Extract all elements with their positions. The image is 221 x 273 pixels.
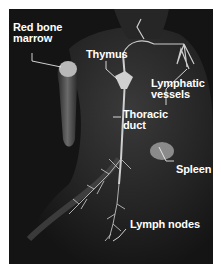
label-thoracic-duct: Thoracic duct — [123, 109, 168, 131]
label-lymphatic-vessels-line2: vessels — [151, 89, 205, 100]
label-red-bone-marrow-line2: marrow — [13, 33, 62, 44]
label-lymph-nodes: Lymph nodes — [130, 219, 200, 230]
label-lymphatic-vessels: Lymphatic vessels — [151, 78, 205, 100]
label-thymus: Thymus — [86, 49, 128, 60]
label-thoracic-duct-line2: duct — [123, 120, 168, 131]
spleen-organ — [150, 142, 174, 160]
label-spleen: Spleen — [176, 164, 211, 175]
lymphatic-system-figure: Red bone marrow Thymus Lymphatic vessels… — [9, 9, 213, 264]
bone-head — [59, 61, 77, 77]
label-red-bone-marrow: Red bone marrow — [13, 22, 62, 44]
